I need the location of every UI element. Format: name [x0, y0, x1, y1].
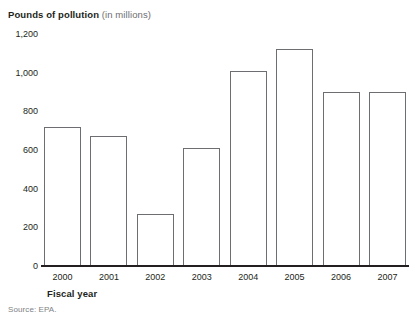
x-axis-tick-labels: 20002001200220032004200520062007: [44, 272, 406, 283]
source-note: Source: EPA.: [8, 305, 57, 314]
y-tick-label: 1,200: [0, 29, 38, 39]
x-tick-label-2000: 2000: [44, 272, 81, 283]
x-tick-label-2007: 2007: [369, 272, 406, 283]
bar-slot: [137, 34, 174, 266]
bar-2002[interactable]: [137, 214, 174, 266]
y-tick-label: 600: [0, 145, 38, 155]
bars-layer: [44, 34, 406, 266]
bar-2004[interactable]: [230, 71, 267, 266]
pollution-bar-chart: Pounds of pollution (in millions) 020040…: [0, 0, 418, 319]
bar-slot: [369, 34, 406, 266]
x-tick-label-2005: 2005: [276, 272, 313, 283]
chart-title-units: (in millions): [102, 9, 151, 20]
bar-2000[interactable]: [44, 127, 81, 266]
plot-area: [44, 34, 406, 266]
x-axis-title: Fiscal year: [47, 288, 97, 299]
x-tick-label-2003: 2003: [183, 272, 220, 283]
y-tick-label: 0: [0, 261, 38, 271]
bar-slot: [44, 34, 81, 266]
bar-2006[interactable]: [323, 92, 360, 266]
x-tick-label-2001: 2001: [90, 272, 127, 283]
y-tick-label: 200: [0, 222, 38, 232]
y-tick-label: 400: [0, 184, 38, 194]
y-axis-tick-labels: 02004006008001,0001,200: [0, 0, 38, 319]
bar-slot: [90, 34, 127, 266]
x-tick-label-2002: 2002: [137, 272, 174, 283]
bar-2003[interactable]: [183, 148, 220, 266]
y-tick-label: 800: [0, 106, 38, 116]
y-tick-label: 1,000: [0, 68, 38, 78]
bar-2005[interactable]: [276, 49, 313, 266]
bar-2001[interactable]: [90, 136, 127, 266]
x-tick-label-2006: 2006: [323, 272, 360, 283]
bar-slot: [276, 34, 313, 266]
bar-slot: [183, 34, 220, 266]
bar-slot: [323, 34, 360, 266]
bar-slot: [230, 34, 267, 266]
x-axis-baseline: [41, 265, 409, 267]
bar-2007[interactable]: [369, 92, 406, 266]
x-tick-label-2004: 2004: [230, 272, 267, 283]
